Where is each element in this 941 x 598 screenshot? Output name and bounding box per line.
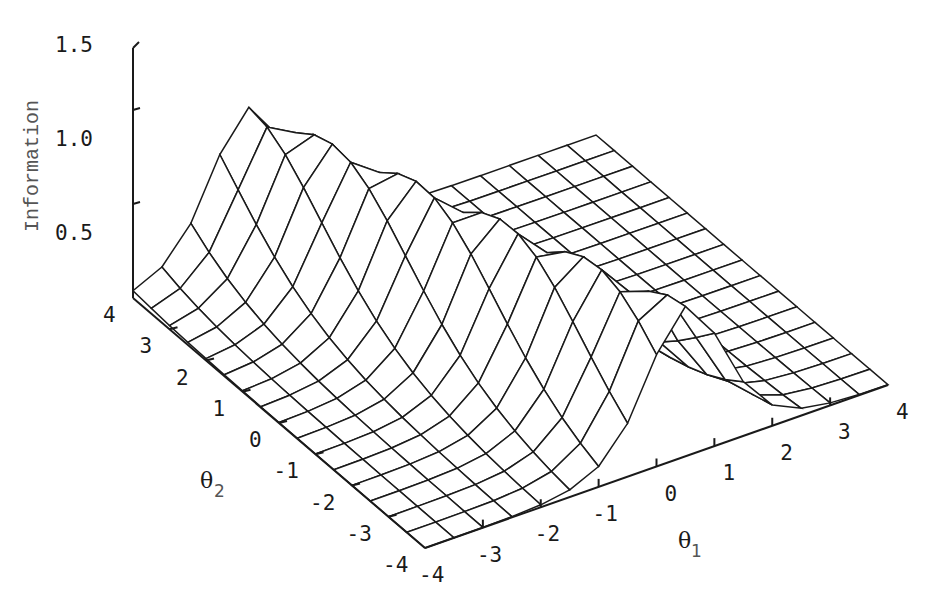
theta2-tick-label: 1 [213, 397, 226, 421]
theta1-tick-label: 3 [838, 420, 851, 444]
theta1-tick-label: 4 [896, 400, 909, 424]
theta1-axis-title: θ 1 [678, 528, 702, 561]
theta1-tick-label: -4 [419, 563, 444, 587]
theta2-tick-label: -2 [310, 491, 335, 515]
information-surface-plot: Information 1.5 1.0 0.5 -4-3-2-101234 -4… [0, 0, 941, 598]
theta1-tick-label: -3 [477, 543, 502, 567]
surface-wireframe [133, 107, 888, 548]
theta1-tick-label: -2 [535, 522, 560, 546]
theta2-tick-label: 4 [103, 303, 116, 327]
theta2-tick-label: -4 [383, 553, 408, 577]
z-axis-tick [133, 202, 140, 204]
z-axis-title: Information [21, 100, 44, 232]
theta1-tick-label: -1 [593, 502, 618, 526]
theta2-tick-label: 2 [176, 366, 189, 390]
theta2-axis-title: θ 2 [200, 468, 225, 501]
svg-text:1: 1 [691, 541, 702, 561]
theta2-tick-label: 0 [249, 428, 262, 452]
theta1-tick-label: 1 [722, 461, 735, 485]
z-axis-tick [133, 108, 140, 110]
theta2-tick-label: 3 [140, 334, 153, 358]
theta1-tick-label: 2 [780, 441, 793, 465]
theta1-tick-label: 0 [665, 482, 678, 506]
z-tick-label: 1.0 [55, 127, 93, 151]
z-tick-label: 1.5 [55, 33, 93, 57]
svg-text:θ: θ [200, 468, 213, 493]
z-axis-tick [133, 42, 139, 48]
svg-text:θ: θ [678, 528, 691, 553]
z-tick-label: 0.5 [55, 221, 93, 245]
svg-text:2: 2 [214, 481, 225, 501]
theta2-tick-label: -3 [347, 522, 372, 546]
theta2-tick-label: -1 [274, 459, 299, 483]
